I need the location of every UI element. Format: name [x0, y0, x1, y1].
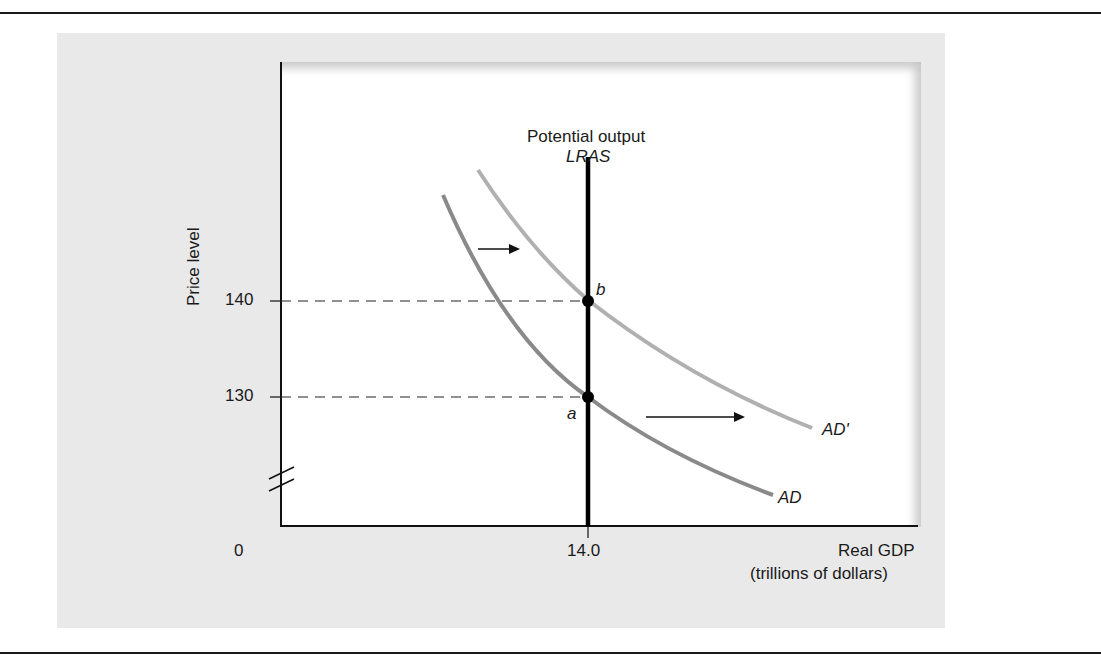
point-a-label: a	[567, 404, 576, 424]
point-b-label: b	[596, 280, 605, 300]
bottom-rule	[0, 652, 1101, 654]
chart-svg	[0, 0, 1101, 664]
ad-curve	[443, 195, 773, 495]
origin-label: 0	[234, 541, 243, 561]
y-tick-label-140: 140	[225, 290, 253, 310]
potential-output-label: Potential output	[527, 127, 645, 147]
ad-prime-label: AD'	[822, 420, 849, 440]
y-axis-label: Price level	[184, 228, 204, 306]
point-a	[582, 391, 594, 403]
ad-label: AD	[778, 488, 802, 508]
shift-arrow-upper	[478, 244, 520, 254]
x-axis-label-line2: (trillions of dollars)	[750, 564, 888, 584]
y-tick-label-130: 130	[225, 386, 253, 406]
x-axis-label-line1: Real GDP	[838, 541, 915, 561]
ad-prime-curve	[478, 170, 812, 428]
lras-label: LRAS	[566, 147, 610, 167]
point-b	[582, 295, 594, 307]
shift-arrow-lower	[646, 412, 745, 422]
x-tick-label-14: 14.0	[567, 541, 600, 561]
